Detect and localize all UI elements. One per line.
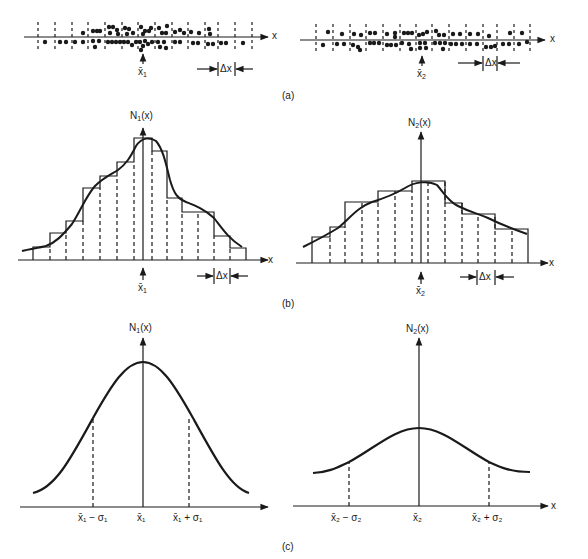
panel-c-left-gaussian <box>20 338 268 507</box>
tick-label-mean-minus-sigma: x̄₁ − σ₁ <box>78 513 107 523</box>
axis-label-x: x <box>272 31 277 41</box>
tick-label-mean: x̄₂ <box>413 513 422 523</box>
tick-label-mean: x̄₁ <box>137 513 145 523</box>
axis-label-x: x <box>549 258 554 268</box>
mean-label: x̄2 <box>417 69 426 80</box>
panel-b-left-histogram <box>18 128 268 284</box>
mean-subscript: 2 <box>422 73 426 80</box>
mean-subscript: 1 <box>143 71 147 78</box>
y-axis-label: N1(x) <box>130 111 153 122</box>
y-axis-label: N2(x) <box>406 324 429 335</box>
axis-label-x: x <box>268 255 273 265</box>
mean-label: x̄1 <box>138 283 147 294</box>
histogram-bars <box>33 138 246 260</box>
panel-tag-a: (a) <box>282 90 294 101</box>
data-points <box>43 24 245 52</box>
bin-ticks <box>316 24 530 54</box>
panel-c-right-gaussian <box>293 338 548 506</box>
y-axis-label: N2(x) <box>408 118 431 129</box>
axis-label-x: x <box>550 34 555 44</box>
delta-x-label: Δx <box>479 272 491 282</box>
mean-label: x̄2 <box>416 286 425 297</box>
tick-label-mean-plus-sigma: x̄₂ + σ₂ <box>472 513 502 523</box>
panel-tag-b: (b) <box>282 298 294 309</box>
mean-label: x̄1 <box>138 67 147 78</box>
gaussian-curve <box>33 362 249 493</box>
panel-a-right-strip <box>300 24 545 71</box>
mean-subscript: 2 <box>421 290 425 297</box>
y-argument: (x) <box>141 110 153 121</box>
tick-label-mean-plus-sigma: x̄₁ + σ₁ <box>173 513 202 523</box>
delta-x-label: Δx <box>485 58 497 68</box>
y-argument: (x) <box>417 323 429 334</box>
smoothed-curve <box>22 138 242 251</box>
panel-tag-c: (c) <box>282 541 294 552</box>
y-argument: (x) <box>419 117 431 128</box>
y-argument: (x) <box>140 322 152 333</box>
gaussian-curve <box>313 428 530 473</box>
mean-subscript: 1 <box>143 287 147 294</box>
panel-b-right-histogram <box>296 132 548 285</box>
axis-label-x: x <box>551 501 556 511</box>
delta-x-label: Δx <box>216 271 228 281</box>
figure-canvas <box>0 0 588 559</box>
delta-x-label: Δx <box>220 64 232 74</box>
tick-label-mean-minus-sigma: x̄₂ − σ₂ <box>331 513 361 523</box>
y-axis-label: N1(x) <box>129 323 152 334</box>
